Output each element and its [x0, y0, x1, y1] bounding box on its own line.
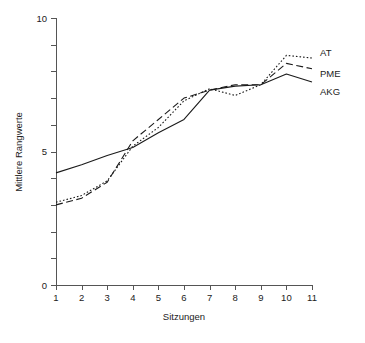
x-tick-label: 9 [258, 292, 263, 303]
data-series-group [56, 55, 312, 205]
x-tick-label: 4 [130, 292, 135, 303]
y-tick-label: 5 [42, 146, 47, 157]
x-axis-tick-labels: 1234567891011 [53, 292, 317, 303]
line-chart: 0510 1234567891011 ATPMEAKG Sitzungen Mi… [0, 0, 365, 343]
x-tick-label: 5 [156, 292, 161, 303]
series-line-at [56, 55, 312, 202]
series-label-at: AT [320, 47, 332, 58]
series-label-pme: PME [320, 68, 341, 79]
x-tick-label: 11 [307, 292, 317, 303]
series-label-akg: AKG [320, 86, 340, 97]
plot-axes [56, 18, 312, 286]
chart-canvas: 0510 1234567891011 ATPMEAKG Sitzungen Mi… [0, 0, 365, 343]
y-tick-label: 0 [42, 280, 47, 291]
x-tick-label: 1 [53, 292, 58, 303]
x-tick-label: 2 [79, 292, 84, 303]
x-axis-title: Sitzungen [163, 311, 205, 322]
series-label-group: ATPMEAKG [312, 47, 341, 97]
series-line-pme [56, 63, 312, 205]
y-axis-ticks [51, 19, 56, 286]
x-tick-label: 6 [181, 292, 186, 303]
x-tick-label: 10 [281, 292, 292, 303]
series-line-akg [56, 74, 312, 173]
y-axis-tick-labels: 0510 [36, 13, 47, 291]
x-tick-label: 8 [233, 292, 238, 303]
y-tick-label: 10 [36, 13, 47, 24]
x-tick-label: 7 [207, 292, 212, 303]
x-tick-label: 3 [105, 292, 110, 303]
y-axis-title: Mittlere Rangwerte [13, 112, 24, 192]
